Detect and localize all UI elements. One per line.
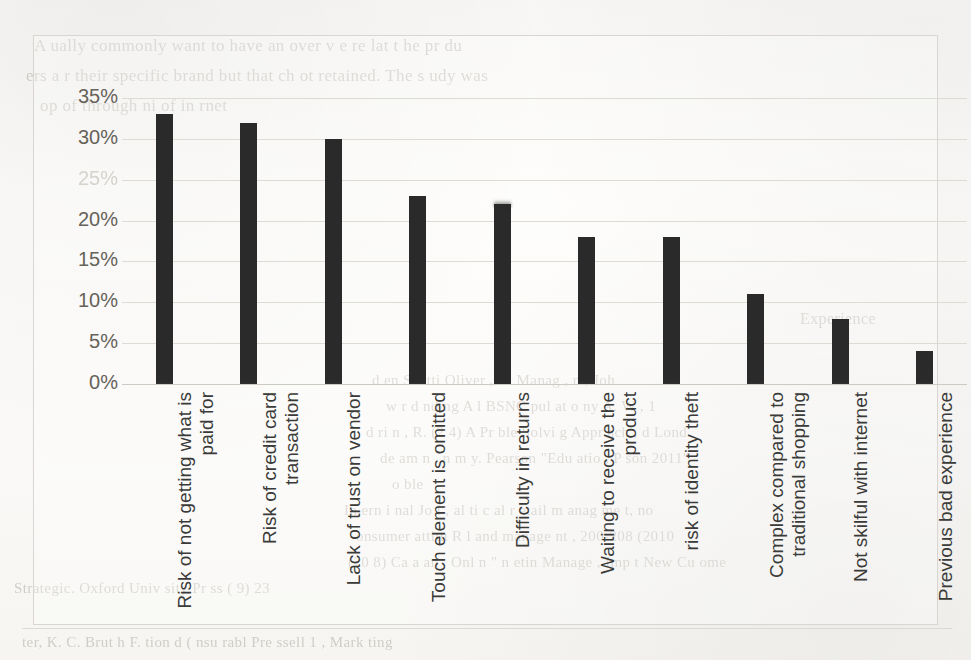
bar-4 (409, 196, 426, 384)
category-label-7: risk of identity theft (681, 392, 703, 642)
bar-9 (832, 319, 849, 384)
category-label-4: Touch element is omitted (428, 392, 450, 642)
plot-area (122, 98, 971, 384)
y-tick-label-30: 30% (56, 126, 118, 149)
y-tick-label-35: 35% (56, 85, 118, 108)
y-tick-label-25: 25% (56, 167, 118, 190)
chart-figure-frame: 0%5%10%15%20%25%30%35% Risk of not getti… (33, 35, 938, 625)
category-label-8: Complex compared to traditional shopping (766, 392, 810, 642)
y-tick-label-15: 15% (56, 248, 118, 271)
bar-7 (663, 237, 680, 384)
y-tick-label-0: 0% (56, 371, 118, 394)
bar-6 (578, 237, 595, 384)
category-label-9: Not skilful with internet (850, 392, 872, 642)
bar-8 (747, 294, 764, 384)
category-label-5: Difficulty in returns (512, 392, 534, 642)
bar-2 (240, 123, 257, 384)
bar-3 (325, 139, 342, 384)
y-tick-label-10: 10% (56, 289, 118, 312)
bar-5 (494, 204, 511, 384)
category-label-6: Waiting to receive the product (597, 392, 641, 642)
category-label-10: Previous bad experience (935, 392, 957, 642)
category-label-2: Risk of credit card transaction (259, 392, 303, 642)
y-tick-label-20: 20% (56, 208, 118, 231)
scanned-document-page: A ually commonly want to have an over v … (0, 0, 971, 660)
page-bottom-rule (22, 628, 952, 629)
y-tick-label-5: 5% (56, 330, 118, 353)
bar-10 (916, 351, 933, 384)
category-label-1: Risk of not getting what is paid for (174, 392, 218, 642)
x-axis-category-labels: Risk of not getting what is paid forRisk… (122, 388, 971, 656)
bar-1 (156, 114, 173, 384)
gridline-0 (122, 384, 967, 385)
gridline-35 (122, 98, 967, 99)
y-axis-tick-labels: 0%5%10%15%20%25%30%35% (52, 98, 118, 384)
category-label-3: Lack of trust on vendor (343, 392, 365, 642)
